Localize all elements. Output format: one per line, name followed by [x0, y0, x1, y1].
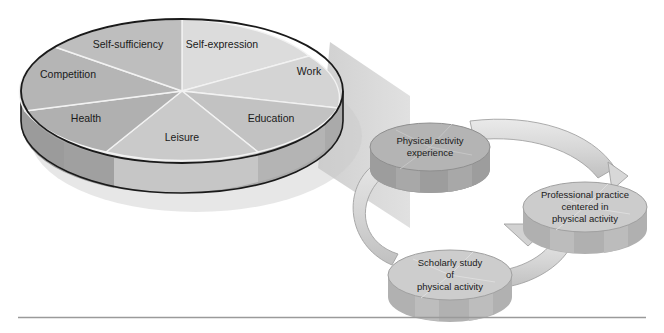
pie-label-health: Health	[71, 112, 102, 124]
scholarly-label-line-2: of	[446, 269, 454, 280]
scholarly-label-line-3: physical activity	[417, 281, 483, 292]
diagram-svg: Self-sufficiency Self-expression Work Co…	[0, 0, 664, 333]
practice-label-line-3: physical activity	[552, 213, 618, 224]
node-scholarly-study[interactable]: Scholarly study of physical activity	[388, 250, 512, 322]
practice-label-line-2: centered in	[561, 201, 608, 212]
pie-label-education: Education	[248, 112, 295, 124]
pie-label-competition: Competition	[40, 68, 96, 80]
figure-canvas: Physical activity spheres and the kinesi…	[0, 0, 664, 333]
experience-label-line-1: Physical activity	[396, 135, 463, 146]
node-professional-practice[interactable]: Professional practice centered in physic…	[523, 182, 647, 254]
experience-label-line-2: experience	[407, 147, 453, 158]
arrow-experience-to-practice	[470, 119, 615, 178]
pie-label-self-sufficiency: Self-sufficiency	[93, 38, 164, 50]
scholarly-label-line-1: Scholarly study	[418, 257, 483, 268]
node-physical-activity-experience[interactable]: Physical activity experience	[370, 123, 490, 193]
pie-label-leisure: Leisure	[165, 131, 200, 143]
pie-label-self-expression: Self-expression	[186, 38, 259, 50]
practice-label-line-1: Professional practice	[541, 189, 629, 200]
pie-label-work: Work	[297, 65, 322, 77]
